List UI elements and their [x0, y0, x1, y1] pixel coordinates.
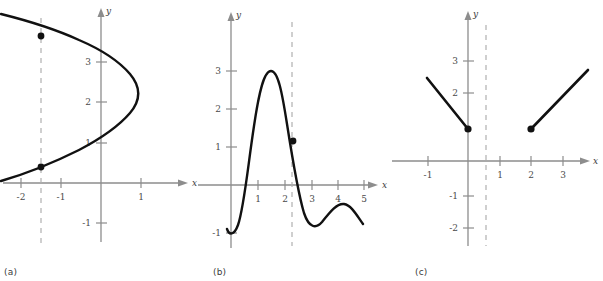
y-tick-label-b-0: 3	[215, 66, 221, 76]
x-axis-arrow-c	[580, 158, 590, 165]
y-tick-label-b-2: 1	[215, 142, 221, 152]
panel-label-c: (c)	[415, 267, 428, 277]
x-tick-label-a-2: 1	[138, 192, 144, 202]
x-tick-label-c-3: 3	[560, 170, 566, 180]
x-axis-arrow-a	[178, 180, 188, 187]
graph-c-svg: -1 1 2 3 3 2 -1 -2 x y	[390, 0, 603, 255]
x-tick-label-b-3: 4	[335, 194, 341, 204]
graph-b-svg: 1 2 3 4 5 3 2 1 -1 x y	[190, 0, 390, 255]
panel-label-b: (b)	[213, 267, 226, 277]
x-tick-label-a-0: -2	[17, 192, 26, 202]
x-tick-label-b-4: 5	[361, 194, 367, 204]
graph-panel-a: -2 -1 1 3 2 1 -1 x y (a)	[0, 0, 200, 281]
y-axis-arrow-c	[465, 11, 472, 20]
y-tick-label-c-1: 2	[452, 88, 458, 98]
y-tick-label-c-2: -1	[449, 191, 458, 201]
y-tick-label-b-1: 2	[215, 104, 221, 114]
data-point-a-upper	[38, 33, 45, 40]
data-point-c-right	[527, 125, 534, 132]
graph-a-svg: -2 -1 1 3 2 1 -1 x y	[0, 0, 200, 255]
x-axis-label-c: x	[593, 156, 598, 166]
x-tick-label-a-1: -1	[57, 192, 66, 202]
y-tick-label-b-3: -1	[212, 228, 221, 238]
x-tick-label-c-0: -1	[424, 170, 433, 180]
y-tick-label-c-0: 3	[452, 56, 458, 66]
graph-panel-b: 1 2 3 4 5 3 2 1 -1 x y (b)	[190, 0, 390, 281]
segment-c-right	[531, 70, 588, 129]
segment-c-left	[427, 78, 468, 129]
x-axis-arrow-b	[368, 182, 378, 189]
x-tick-label-c-1: 1	[497, 170, 503, 180]
graph-panel-c: -1 1 2 3 3 2 -1 -2 x y (c)	[390, 0, 603, 281]
x-tick-label-b-0: 1	[255, 194, 261, 204]
y-axis-label-a: y	[105, 6, 112, 16]
curve-a-sideways-parabola	[1, 14, 138, 181]
data-point-b	[290, 138, 297, 145]
y-tick-label-a-1: 2	[85, 97, 91, 107]
y-tick-label-c-3: -2	[449, 223, 458, 233]
y-axis-arrow-a	[98, 8, 105, 17]
y-tick-label-a-3: -1	[82, 218, 91, 228]
x-axis-label-b: x	[382, 180, 387, 190]
y-axis-arrow-b	[228, 12, 235, 21]
x-tick-label-b-1: 2	[282, 194, 288, 204]
figure-three-graphs: -2 -1 1 3 2 1 -1 x y (a)	[0, 0, 603, 281]
data-point-a-lower	[38, 164, 45, 171]
curve-b-oscillating	[227, 71, 363, 233]
y-axis-label-b: y	[235, 10, 242, 20]
y-axis-label-c: y	[472, 9, 479, 19]
panel-label-a: (a)	[4, 267, 17, 277]
x-tick-label-c-2: 2	[528, 170, 534, 180]
x-tick-label-b-2: 3	[309, 194, 315, 204]
data-point-c-left	[464, 125, 471, 132]
y-tick-label-a-0: 3	[85, 57, 91, 67]
